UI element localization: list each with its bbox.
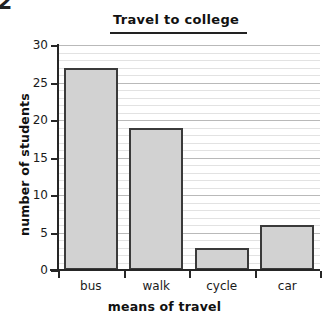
y-axis-tick-label: 30 — [2, 38, 48, 52]
plot-area — [58, 45, 320, 270]
x-axis-tick — [124, 271, 126, 278]
bar-car — [260, 225, 314, 270]
gridline-minor — [58, 53, 320, 54]
y-axis-tick — [51, 120, 58, 122]
x-axis-title: means of travel — [0, 299, 329, 314]
x-axis-tick — [320, 271, 322, 278]
x-axis-tick — [189, 271, 191, 278]
y-axis-tick — [51, 45, 58, 47]
x-axis-tick — [255, 271, 257, 278]
x-axis-tick-label-car: car — [278, 279, 297, 293]
y-axis-tick-label: 0 — [2, 263, 48, 277]
x-axis-tick-label-bus: bus — [80, 279, 101, 293]
y-axis-tick — [51, 233, 58, 235]
bar-cycle — [195, 248, 249, 270]
y-axis-tick — [51, 83, 58, 85]
bar-bus — [64, 68, 118, 270]
x-axis-tick — [58, 271, 60, 278]
chart-title-underline — [110, 32, 247, 34]
x-axis-tick-label-cycle: cycle — [206, 279, 237, 293]
gridline-minor — [58, 60, 320, 61]
y-axis-title: number of students — [17, 75, 32, 255]
x-axis-line — [50, 269, 320, 271]
y-axis-tick — [51, 270, 58, 272]
x-axis-tick-label-walk: walk — [143, 279, 170, 293]
gridline-major — [58, 45, 320, 46]
y-axis-tick — [51, 158, 58, 160]
bar-walk — [129, 128, 183, 270]
chart-title: Travel to college — [113, 12, 239, 27]
y-axis-tick — [51, 195, 58, 197]
